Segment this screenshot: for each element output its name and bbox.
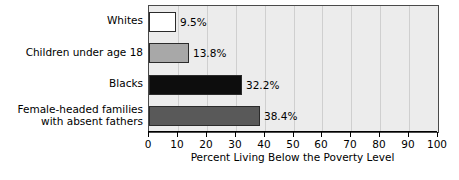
x-tick-label: 70 bbox=[343, 138, 356, 150]
x-tick-label: 60 bbox=[314, 138, 327, 150]
bar-value-label: 38.4% bbox=[260, 111, 297, 122]
bar bbox=[149, 43, 189, 63]
category-label: Children under age 18 bbox=[0, 47, 143, 59]
plot-area: 9.5%13.8%32.2%38.4% bbox=[148, 5, 439, 133]
x-tick-mark bbox=[206, 132, 207, 137]
x-tick-mark bbox=[177, 132, 178, 137]
x-tick-label: 10 bbox=[170, 138, 183, 150]
bar-value-label: 9.5% bbox=[176, 17, 207, 28]
x-tick-mark bbox=[264, 132, 265, 137]
x-tick-mark bbox=[148, 132, 149, 137]
bar-row: 32.2% bbox=[149, 75, 438, 95]
category-label: Whites bbox=[0, 15, 143, 27]
x-tick-mark bbox=[235, 132, 236, 137]
x-tick-label: 100 bbox=[427, 138, 447, 150]
bar-row: 38.4% bbox=[149, 106, 438, 126]
x-tick-mark bbox=[437, 132, 438, 137]
x-tick-label: 0 bbox=[145, 138, 152, 150]
x-tick-mark bbox=[350, 132, 351, 137]
category-label: Female-headed families with absent fathe… bbox=[0, 104, 143, 127]
bar-chart-figure: WhitesChildren under age 18BlacksFemale-… bbox=[0, 0, 459, 180]
x-tick-label: 20 bbox=[199, 138, 212, 150]
x-axis-ticks: 0102030405060708090100 bbox=[148, 132, 437, 152]
x-tick-label: 80 bbox=[372, 138, 385, 150]
bar bbox=[149, 106, 260, 126]
category-label: Blacks bbox=[0, 78, 143, 90]
bar-row: 13.8% bbox=[149, 43, 438, 63]
bar-row: 9.5% bbox=[149, 12, 438, 32]
x-tick-label: 90 bbox=[401, 138, 414, 150]
bar bbox=[149, 12, 176, 32]
category-axis-labels: WhitesChildren under age 18BlacksFemale-… bbox=[0, 5, 143, 125]
bar bbox=[149, 75, 242, 95]
x-tick-label: 50 bbox=[286, 138, 299, 150]
x-tick-mark bbox=[408, 132, 409, 137]
x-tick-mark bbox=[379, 132, 380, 137]
bar-value-label: 13.8% bbox=[189, 48, 226, 59]
x-tick-mark bbox=[321, 132, 322, 137]
bar-value-label: 32.2% bbox=[242, 80, 279, 91]
x-tick-mark bbox=[293, 132, 294, 137]
x-tick-label: 30 bbox=[228, 138, 241, 150]
x-tick-label: 40 bbox=[257, 138, 270, 150]
x-axis-title: Percent Living Below the Poverty Level bbox=[148, 151, 437, 164]
